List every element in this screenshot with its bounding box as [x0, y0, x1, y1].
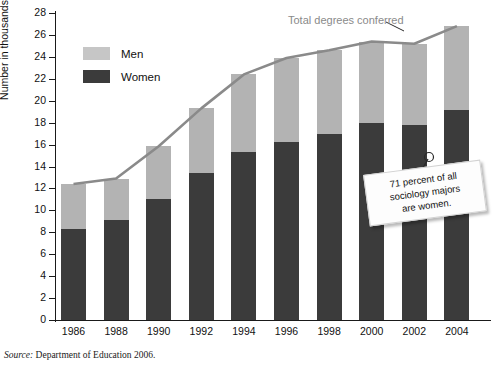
bar-segment-women: [189, 173, 214, 320]
x-tick-label-1994: 1994: [221, 325, 267, 337]
x-tick-label-2002: 2002: [391, 325, 437, 337]
bar-segment-men: [444, 26, 469, 109]
bar-1988: [104, 179, 129, 320]
y-tick-mark: [49, 320, 55, 321]
y-tick-mark: [49, 276, 55, 277]
x-tick-label-1990: 1990: [136, 325, 182, 337]
bar-segment-men: [146, 146, 171, 199]
y-tick-label: 4: [22, 269, 46, 281]
y-tick-label: 16: [22, 138, 46, 150]
y-tick-mark: [49, 188, 55, 189]
x-tick-label-1992: 1992: [178, 325, 224, 337]
legend-label-women: Women: [121, 71, 160, 83]
legend: Men Women: [83, 44, 160, 90]
y-tick-label: 26: [22, 28, 46, 40]
y-tick-mark: [49, 232, 55, 233]
y-tick-label: 12: [22, 181, 46, 193]
legend-item-women: Women: [83, 67, 160, 86]
source-footnote: Source: Department of Education 2006.: [4, 350, 155, 360]
x-tick-label-2000: 2000: [349, 325, 395, 337]
bar-1990: [146, 146, 171, 320]
bar-segment-women: [61, 229, 86, 320]
bar-1996: [274, 58, 299, 320]
y-tick-label: 14: [22, 160, 46, 172]
bar-segment-men: [274, 58, 299, 142]
legend-swatch-men: [83, 47, 110, 60]
y-axis-line: [55, 11, 56, 322]
bar-segment-women: [231, 152, 256, 320]
y-axis-label-wrapper: Number in thousands: [0, 0, 10, 120]
y-tick-label: 24: [22, 50, 46, 62]
bar-segment-women: [146, 199, 171, 320]
y-tick-label: 10: [22, 203, 46, 215]
y-tick-mark: [49, 13, 55, 14]
y-tick-mark: [49, 145, 55, 146]
x-tick-label-1998: 1998: [306, 325, 352, 337]
y-tick-label: 18: [22, 116, 46, 128]
trend-line-label: Total degrees conferred: [288, 14, 404, 26]
y-tick-mark: [49, 298, 55, 299]
bar-segment-men: [231, 74, 256, 152]
bar-segment-women: [274, 142, 299, 320]
chart-figure: Number in thousands 02468101214161820222…: [0, 0, 497, 369]
y-tick-label: 28: [22, 6, 46, 18]
bar-segment-men: [317, 50, 342, 133]
bar-1986: [61, 184, 86, 320]
x-tick-label-1986: 1986: [51, 325, 97, 337]
x-tick-label-1988: 1988: [93, 325, 139, 337]
y-tick-label: 6: [22, 247, 46, 259]
bar-1994: [231, 74, 256, 320]
legend-label-men: Men: [121, 48, 143, 60]
y-tick-mark: [49, 254, 55, 255]
x-tick-label-2004: 2004: [434, 325, 480, 337]
bar-1998: [317, 50, 342, 320]
y-tick-label: 22: [22, 72, 46, 84]
bar-segment-women: [317, 134, 342, 320]
bar-segment-men: [359, 42, 384, 123]
y-tick-mark: [49, 101, 55, 102]
y-tick-label: 20: [22, 94, 46, 106]
x-axis-line: [55, 320, 491, 321]
y-tick-mark: [49, 167, 55, 168]
y-tick-mark: [49, 210, 55, 211]
legend-swatch-women: [83, 70, 110, 83]
y-tick-mark: [49, 123, 55, 124]
y-tick-label: 0: [22, 313, 46, 325]
x-tick-label-1996: 1996: [264, 325, 310, 337]
legend-item-men: Men: [83, 44, 160, 63]
y-tick-mark: [49, 57, 55, 58]
bar-segment-women: [104, 220, 129, 320]
y-tick-label: 2: [22, 291, 46, 303]
y-tick-mark: [49, 35, 55, 36]
y-axis-label: Number in thousands: [0, 0, 10, 120]
bar-segment-men: [61, 184, 86, 229]
source-prefix: Source:: [4, 350, 33, 360]
bar-segment-men: [104, 179, 129, 221]
bar-1992: [189, 108, 214, 320]
bar-segment-men: [402, 44, 427, 125]
y-tick-label: 8: [22, 225, 46, 237]
y-tick-mark: [49, 79, 55, 80]
bar-segment-men: [189, 108, 214, 173]
source-text: Department of Education 2006.: [36, 350, 156, 360]
bar-segment-women: [402, 125, 427, 320]
